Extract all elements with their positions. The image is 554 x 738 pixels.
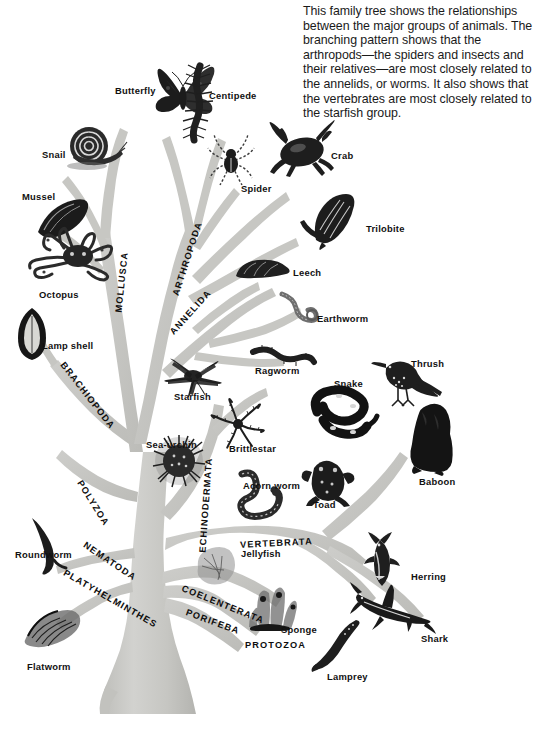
animal-label: Snail bbox=[42, 150, 66, 159]
animal-label: Earthworm bbox=[317, 314, 368, 323]
animal-label: Jellyfish bbox=[241, 549, 281, 558]
animal-label: Snake bbox=[334, 379, 363, 388]
animal-label: Mussel bbox=[22, 192, 55, 201]
animal-label: Starfish bbox=[174, 392, 211, 401]
animal-label: Spider bbox=[241, 184, 272, 193]
branch-echinodermata bbox=[160, 404, 224, 520]
figure-caption: This family tree shows the relationships… bbox=[303, 4, 551, 121]
animal-label: Sea-urchin bbox=[146, 440, 197, 449]
animal-label: Roundworm bbox=[15, 550, 72, 559]
family-tree-figure: This family tree shows the relationships… bbox=[0, 0, 554, 738]
phylum-label: PROTOZOA bbox=[245, 641, 306, 650]
animal-label: Trilobite bbox=[366, 224, 405, 233]
animal-label: Leech bbox=[293, 268, 321, 277]
branch-vertebrata-upper bbox=[322, 452, 408, 540]
animal-label: Ragworm bbox=[255, 366, 299, 375]
branch-vertebrata-lower bbox=[326, 546, 424, 622]
branch-snail bbox=[100, 128, 128, 238]
branch-butterfly bbox=[162, 136, 196, 238]
animal-label: Acorn worm bbox=[243, 481, 300, 490]
animal-label: Brittlestar bbox=[229, 444, 276, 453]
animal-label: Crab bbox=[331, 151, 353, 160]
branch-polyzoa bbox=[56, 450, 138, 502]
animal-label: Octopus bbox=[39, 290, 79, 299]
animal-label: Centipede bbox=[209, 91, 257, 100]
animal-label: Sponge bbox=[281, 625, 317, 634]
animal-label: Toad bbox=[313, 500, 336, 509]
animal-label: Flatworm bbox=[27, 662, 71, 671]
animal-label: Shark bbox=[421, 634, 448, 643]
animal-label: Baboon bbox=[419, 477, 455, 486]
animal-label: Lamprey bbox=[327, 672, 368, 681]
animal-label: Thrush bbox=[411, 359, 444, 368]
animal-label: Butterfly bbox=[115, 86, 156, 95]
animal-label: Herring bbox=[411, 572, 446, 581]
animal-label: Lamp shell bbox=[42, 341, 93, 350]
